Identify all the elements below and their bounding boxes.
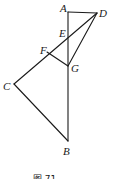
segment-FG <box>47 52 68 66</box>
point-label-F: F <box>39 44 47 56</box>
point-label-A: A <box>59 2 67 14</box>
segment-DG <box>68 13 97 66</box>
point-label-G: G <box>71 62 79 74</box>
point-label-B: B <box>63 145 70 157</box>
segment-AD <box>68 12 97 13</box>
point-label-D: D <box>98 7 107 19</box>
point-label-C: C <box>3 80 11 92</box>
point-label-E: E <box>58 27 66 39</box>
segment-CB <box>14 84 68 141</box>
figure-caption: 图 71 <box>33 174 56 179</box>
segment-DC <box>14 13 97 84</box>
geometry-figure: A B C D E F G 图 71 <box>0 0 113 179</box>
